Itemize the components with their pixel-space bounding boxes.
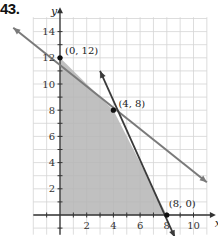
y-axis-arrow-icon [57, 7, 63, 13]
vertex-label: (8, 0) [169, 198, 196, 209]
vertex-point [57, 55, 62, 60]
vertex-point [164, 212, 169, 217]
y-tick-label: 6 [49, 131, 55, 142]
x-tick-label: 4 [110, 220, 116, 231]
y-tick-label: 2 [49, 183, 55, 194]
y-tick-label: 12 [42, 52, 55, 63]
x-tick-label: 6 [137, 220, 143, 231]
y-tick-label: 8 [49, 105, 55, 116]
chart: xy 2468102468101214 (0, 12)(4, 8)(8, 0) [0, 0, 218, 236]
vertex-label: (4, 8) [118, 98, 145, 109]
x-tick-label: 8 [164, 220, 170, 231]
y-tick-label: 4 [49, 157, 55, 168]
x-axis-label: x [215, 217, 218, 230]
y-axis-label: y [50, 5, 58, 18]
vertex-label: (0, 12) [65, 45, 98, 56]
x-tick-label: 2 [84, 220, 90, 231]
x-tick-label: 10 [187, 220, 200, 231]
y-tick-label: 14 [42, 26, 55, 37]
vertex-point [111, 108, 116, 113]
y-tick-label: 10 [42, 79, 55, 90]
